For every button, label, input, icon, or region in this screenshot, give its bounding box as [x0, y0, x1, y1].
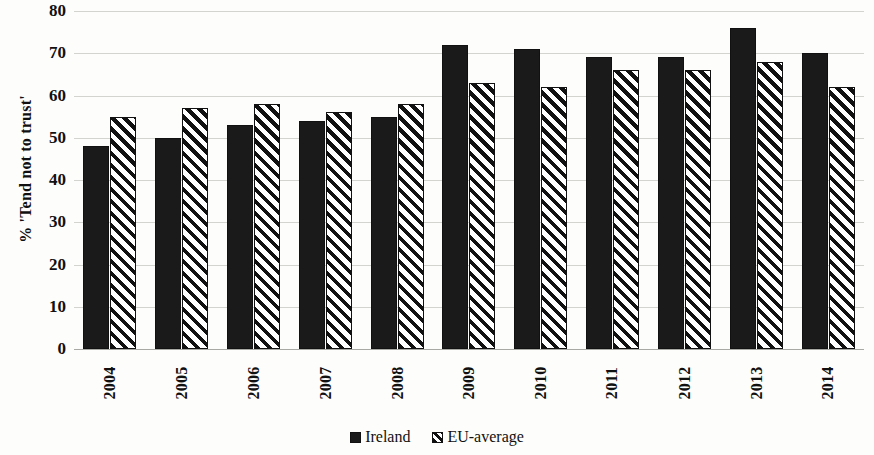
bar-ireland-2011: [586, 57, 612, 349]
x-axis-tick-cell: 2009: [433, 352, 505, 414]
x-axis-tick-label: 2004: [101, 366, 119, 399]
y-axis-tick-label: 70: [20, 43, 66, 63]
x-axis-tick-cell: 2008: [361, 352, 433, 414]
bar-group: [146, 11, 218, 349]
x-axis-tick-cell: 2012: [649, 352, 721, 414]
y-axis-tick-label: 80: [20, 1, 66, 21]
bar-group: [649, 11, 721, 349]
x-axis-line: [74, 349, 864, 350]
bar-group: [218, 11, 290, 349]
bar-ireland-2010: [514, 49, 540, 349]
bar-ireland-2012: [658, 57, 684, 349]
bar-ireland-2014: [802, 53, 828, 349]
bar-ireland-2005: [155, 138, 181, 349]
y-axis-tick-label: 40: [20, 170, 66, 190]
x-axis-tick-cell: 2010: [505, 352, 577, 414]
legend-label: Ireland: [365, 428, 410, 446]
x-axis-tick-cell: 2007: [289, 352, 361, 414]
bar-eu-average-2011: [613, 70, 639, 349]
x-axis-tick-label: 2013: [747, 366, 765, 399]
x-axis-tick-label: 2010: [532, 366, 550, 399]
bar-eu-average-2004: [110, 117, 136, 349]
x-axis-tick-label: 2005: [173, 366, 191, 399]
y-axis-tick-label: 50: [20, 128, 66, 148]
bar-group: [720, 11, 792, 349]
plot-area: [74, 11, 864, 349]
y-axis-tick-label: 10: [20, 297, 66, 317]
bar-eu-average-2008: [398, 104, 424, 349]
legend-item-ireland[interactable]: Ireland: [350, 428, 410, 446]
bar-eu-average-2013: [757, 62, 783, 349]
x-axis-tick-cell: 2005: [146, 352, 218, 414]
y-axis-tick-label: 20: [20, 255, 66, 275]
chart-legend: IrelandEU-average: [0, 428, 874, 446]
bar-eu-average-2010: [541, 87, 567, 349]
x-axis-tick-cell: 2004: [74, 352, 146, 414]
x-axis-tick-label: 2008: [388, 366, 406, 399]
bar-ireland-2006: [227, 125, 253, 349]
bar-chart: % 'Tend not to trust' 80706050403020100 …: [0, 0, 874, 455]
y-axis-tick-label: 60: [20, 86, 66, 106]
x-axis-tick-label: 2011: [604, 367, 622, 399]
bar-group: [74, 11, 146, 349]
bar-group: [505, 11, 577, 349]
bar-eu-average-2014: [829, 87, 855, 349]
x-axis-tick-cell: 2013: [720, 352, 792, 414]
legend-swatch-solid-black: [350, 432, 361, 443]
legend-item-eu-average[interactable]: EU-average: [432, 428, 523, 446]
bar-ireland-2008: [371, 117, 397, 349]
x-axis-tick-label: 2014: [819, 366, 837, 399]
x-axis-tick-cell: 2014: [792, 352, 864, 414]
bar-eu-average-2005: [182, 108, 208, 349]
bar-ireland-2013: [730, 28, 756, 349]
legend-swatch-diagonal-hatch: [432, 432, 443, 443]
bar-group: [361, 11, 433, 349]
bar-ireland-2007: [299, 121, 325, 349]
x-axis-tick-labels: 2004200520062007200820092010201120122013…: [74, 352, 864, 414]
x-axis-tick-label: 2006: [245, 366, 263, 399]
bar-eu-average-2007: [326, 112, 352, 349]
bar-eu-average-2009: [469, 83, 495, 349]
bar-group: [289, 11, 361, 349]
bar-ireland-2009: [442, 45, 468, 349]
x-axis-tick-cell: 2011: [577, 352, 649, 414]
y-axis-tick-label: 0: [20, 339, 66, 359]
legend-label: EU-average: [447, 428, 523, 446]
y-axis-tick-label: 30: [20, 212, 66, 232]
bar-group: [433, 11, 505, 349]
x-axis-tick-label: 2012: [675, 366, 693, 399]
bar-group: [792, 11, 864, 349]
x-axis-tick-label: 2007: [316, 366, 334, 399]
x-axis-tick-label: 2009: [460, 366, 478, 399]
x-axis-tick-cell: 2006: [218, 352, 290, 414]
bar-eu-average-2012: [685, 70, 711, 349]
bar-eu-average-2006: [254, 104, 280, 349]
bar-ireland-2004: [83, 146, 109, 349]
bar-group: [577, 11, 649, 349]
bar-groups: [74, 11, 864, 349]
